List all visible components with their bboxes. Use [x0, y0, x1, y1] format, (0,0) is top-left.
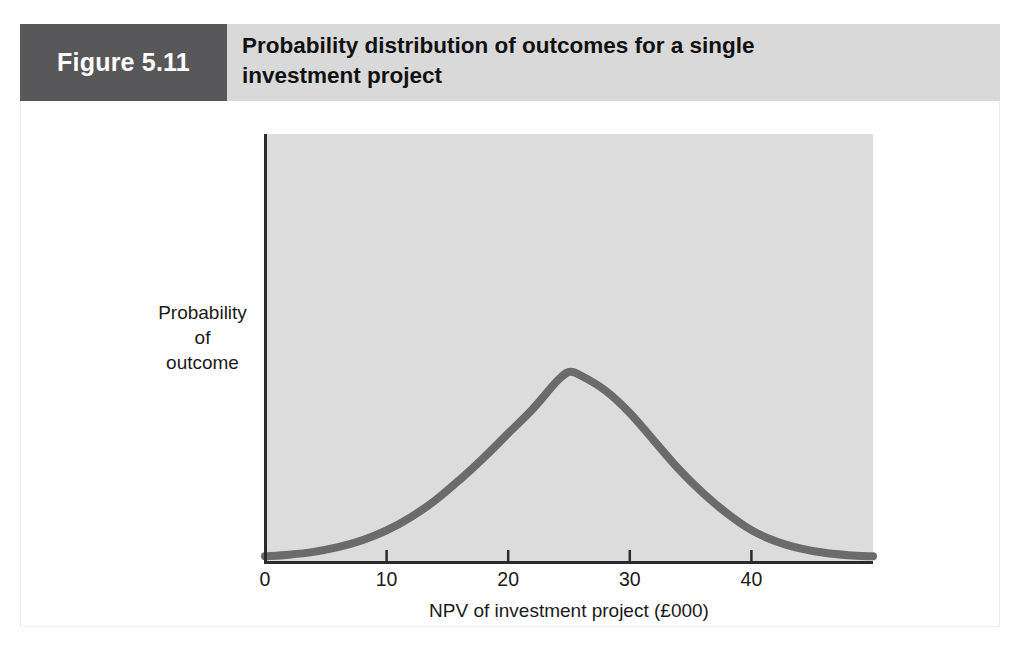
x-axis-tick-label: 40: [721, 568, 781, 591]
x-axis-label: NPV of investment project (£000): [265, 600, 873, 622]
figure-container: Figure 5.11 Probability distribution of …: [0, 0, 1020, 647]
y-axis-label-line-1: Probability: [150, 300, 255, 325]
chart-area: Probability of outcome 010203040 NPV of …: [0, 0, 1020, 647]
plot-background: [265, 134, 873, 562]
y-axis-label: Probability of outcome: [150, 300, 255, 375]
y-axis-label-line-2: of: [150, 325, 255, 350]
x-axis-tick-label: 20: [478, 568, 538, 591]
x-axis-tick-label: 0: [235, 568, 295, 591]
x-axis-tick-label: 30: [600, 568, 660, 591]
x-axis-tick-label: 10: [357, 568, 417, 591]
y-axis-label-line-3: outcome: [150, 350, 255, 375]
